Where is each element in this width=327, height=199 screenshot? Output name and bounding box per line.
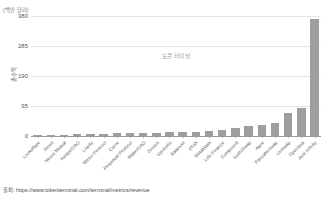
bar-slot[interactable] <box>216 16 229 136</box>
x-axis-tick-labels: LooksRareVenusNexus MutualKeeperDAOLiqui… <box>31 139 321 179</box>
y-axis-tick-label: 0 <box>25 133 28 139</box>
bar[interactable] <box>284 113 292 136</box>
bar-slot[interactable] <box>268 16 281 136</box>
x-label-slot: Axie Infinity <box>308 139 321 179</box>
x-label-slot: Mirror Protocol <box>97 139 110 179</box>
bar-slot[interactable] <box>123 16 136 136</box>
y-axis-unit-label: (백만 달러) <box>3 6 29 13</box>
y-axis-tick-label: 380 <box>18 13 28 19</box>
bar-slot[interactable] <box>176 16 189 136</box>
x-label-slot: MakerDAO <box>137 139 150 179</box>
bar-slot[interactable] <box>84 16 97 136</box>
bar[interactable] <box>231 128 239 136</box>
x-label-slot: Synthetix <box>163 139 176 179</box>
plot-area: 380285190950 토큰 터미널 <box>31 16 321 137</box>
bar-slot[interactable] <box>308 16 321 136</box>
bar-slot[interactable] <box>44 16 57 136</box>
bar[interactable] <box>271 123 279 136</box>
bar-slot[interactable] <box>202 16 215 136</box>
bar-slot[interactable] <box>163 16 176 136</box>
x-label-slot: Gnosis <box>150 139 163 179</box>
bar-slot[interactable] <box>255 16 268 136</box>
bar[interactable] <box>310 19 318 136</box>
bar-slot[interactable] <box>189 16 202 136</box>
bar-slot[interactable] <box>137 16 150 136</box>
source-caption: 출처: https://www.tokenterminal.com/termin… <box>3 186 150 194</box>
bar-slot[interactable] <box>71 16 84 136</box>
bar-slot[interactable] <box>57 16 70 136</box>
bar-slot[interactable] <box>110 16 123 136</box>
bar[interactable] <box>244 126 252 136</box>
x-label-slot: Balancer <box>176 139 189 179</box>
bar-slot[interactable] <box>242 16 255 136</box>
bar[interactable] <box>258 125 266 136</box>
x-label-slot: LooksRare <box>31 139 44 179</box>
x-axis-tick-label: LooksRare <box>22 140 42 160</box>
bar-slot[interactable] <box>150 16 163 136</box>
x-label-slot: dYdX <box>189 139 202 179</box>
bar-slot[interactable] <box>282 16 295 136</box>
bar-slot[interactable] <box>97 16 110 136</box>
x-label-slot: SushiSwap <box>242 139 255 179</box>
x-label-slot: Uniswap <box>282 139 295 179</box>
x-axis-baseline <box>31 136 321 137</box>
bar-slot[interactable] <box>229 16 242 136</box>
x-label-slot: PancakeSwap <box>268 139 281 179</box>
bars-group <box>31 16 321 136</box>
y-axis-title: 총수익 <box>10 54 18 94</box>
y-axis-tick-label: 285 <box>18 43 28 49</box>
y-axis-tick-label: 190 <box>18 73 28 79</box>
revenue-bar-chart-figure: (백만 달러) 총수익 380285190950 토큰 터미널 LooksRar… <box>0 0 327 199</box>
bar-slot[interactable] <box>295 16 308 136</box>
bar[interactable] <box>297 108 305 136</box>
bar-slot[interactable] <box>31 16 44 136</box>
y-axis-tick-label: 95 <box>21 103 28 109</box>
x-label-slot: KeeperDAO <box>71 139 84 179</box>
